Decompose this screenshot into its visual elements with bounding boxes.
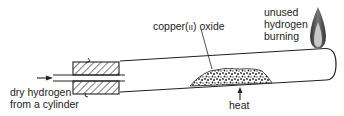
flame-icon [310,7,326,49]
inlet-tube [53,75,125,81]
hydrogen-flow-arrow [37,76,53,81]
copper-oxide-label: copper(II) oxide [153,20,225,34]
unused-hydrogen-label: unused hydrogen burning [264,6,308,42]
copper-oxide-leader [201,29,212,69]
copper-oxide-powder [190,68,272,86]
rubber-stopper [73,58,119,97]
heat-label: heat [229,99,249,111]
hydrogen-source-label: dry hydrogen from a cylinder [10,86,79,110]
